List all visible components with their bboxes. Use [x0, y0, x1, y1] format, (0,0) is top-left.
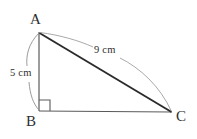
vertex-label-b: B — [26, 114, 36, 129]
measure-label-side-ac: 9 cm — [94, 45, 116, 56]
measure-label-side-ab: 5 cm — [10, 68, 32, 79]
vertex-label-a: A — [30, 12, 41, 27]
vertex-label-c: C — [176, 109, 186, 124]
measure-arc-ab-lower — [29, 82, 40, 111]
side-bc-line — [39, 111, 172, 112]
geometry-figure: A B C 5 cm 9 cm — [0, 0, 197, 139]
right-angle-square-icon — [39, 100, 50, 111]
measure-arc-ab-upper — [27, 33, 39, 66]
measure-arc-ac-upper — [40, 33, 93, 48]
